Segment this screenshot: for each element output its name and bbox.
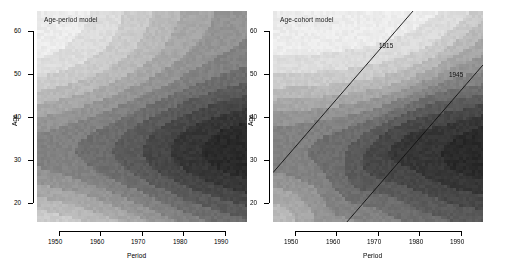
x-tick-label: 1950 [48,238,62,245]
x-axis-title: Period [363,252,382,259]
y-tick [264,31,269,32]
panel-title: Age-period model [44,16,98,23]
y-tick [28,117,33,118]
panel-age-period: Age-period model 60 50 40 30 20 Age 1950… [0,0,252,275]
x-tick-label: 1970 [367,238,381,245]
x-tick-label: 1980 [173,238,187,245]
x-tick-label: 1990 [214,238,228,245]
y-tick [28,160,33,161]
y-tick-label: 60 [14,27,21,34]
y-tick [28,31,33,32]
y-tick [264,160,269,161]
heatmap-canvas [37,11,247,222]
panel-title: Age-cohort model [280,16,334,23]
x-tick-label: 1980 [409,238,423,245]
y-tick [264,117,269,118]
y-tick-label: 20 [250,199,257,206]
x-tick [419,231,420,236]
x-tick [295,231,296,236]
y-tick [264,74,269,75]
cohort-label-1915: 1915 [379,42,393,49]
x-tick [183,231,184,236]
heatmap-canvas [273,11,483,222]
heatmap-age-period [37,11,247,222]
y-tick-label: 30 [14,156,21,163]
y-tick-label: 50 [250,70,257,77]
figure-root: Age-period model 60 50 40 30 20 Age 1950… [0,0,505,275]
heatmap-age-cohort [273,11,483,222]
cohort-label-1945: 1945 [449,71,463,78]
y-tick [28,74,33,75]
x-tick [461,231,462,236]
y-axis-title: Age [247,114,254,126]
y-tick-label: 50 [14,70,21,77]
x-tick-label: 1990 [450,238,464,245]
y-tick-label: 30 [250,156,257,163]
x-tick-label: 1950 [284,238,298,245]
y-axis-line [33,31,34,203]
x-tick-label: 1960 [90,238,104,245]
x-tick [142,231,143,236]
x-tick [225,231,226,236]
x-tick [59,231,60,236]
x-tick [336,231,337,236]
y-axis-title: Age [11,114,18,126]
x-axis-title: Period [127,252,146,259]
x-tick-label: 1970 [131,238,145,245]
x-tick-label: 1960 [326,238,340,245]
x-tick [378,231,379,236]
y-tick-label: 20 [14,199,21,206]
x-tick [100,231,101,236]
panel-age-cohort: Age-cohort model 1915 1945 60 50 40 30 2… [253,0,505,275]
y-tick-label: 60 [250,27,257,34]
y-tick [28,203,33,204]
y-tick [264,203,269,204]
y-axis-line [269,31,270,203]
